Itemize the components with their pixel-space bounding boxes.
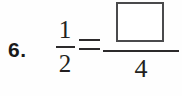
equals-bar-top — [79, 39, 100, 41]
left-fraction: 1 2 — [52, 16, 78, 82]
left-fraction-bar — [56, 46, 75, 48]
math-problem-screenshot: 6. 1 2 4 — [0, 0, 182, 96]
problem-number-label: 6. — [8, 38, 27, 62]
right-fraction: 4 — [102, 0, 180, 92]
equals-bar-bottom — [79, 48, 100, 50]
right-fraction-bar — [103, 50, 179, 52]
equals-sign — [79, 39, 100, 52]
answer-box-input[interactable] — [116, 2, 164, 42]
right-fraction-denominator: 4 — [102, 54, 180, 84]
left-fraction-numerator: 1 — [59, 16, 72, 44]
left-fraction-denominator: 2 — [59, 50, 72, 78]
